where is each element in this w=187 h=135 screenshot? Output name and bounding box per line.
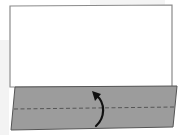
paper-sheet — [10, 5, 172, 87]
fold-diagram — [0, 0, 187, 135]
